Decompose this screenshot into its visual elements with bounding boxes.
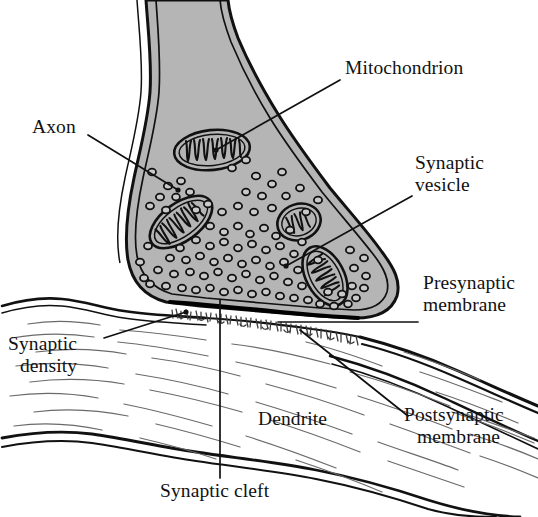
label-mitochondrion: Mitochondrion	[345, 57, 463, 79]
label-postsynaptic-line2: membrane	[417, 426, 500, 448]
label-synaptic-vesicle-line2: vesicle	[415, 174, 470, 196]
label-dendrite: Dendrite	[258, 408, 327, 430]
label-axon: Axon	[32, 116, 76, 138]
label-synaptic-density-line2: density	[20, 355, 77, 377]
label-presynaptic-line1: Presynaptic	[423, 272, 515, 294]
axon-terminal	[118, 0, 398, 318]
label-synaptic-density-line1: Synaptic	[8, 333, 77, 355]
label-synaptic-vesicle-line1: Synaptic	[415, 152, 484, 174]
label-postsynaptic-line1: Postsynaptic	[404, 404, 504, 426]
synapse-diagram: Mitochondrion Synaptic vesicle Presynapt…	[0, 0, 538, 517]
label-synaptic-cleft: Synaptic cleft	[160, 480, 269, 502]
label-presynaptic-line2: membrane	[423, 294, 506, 316]
